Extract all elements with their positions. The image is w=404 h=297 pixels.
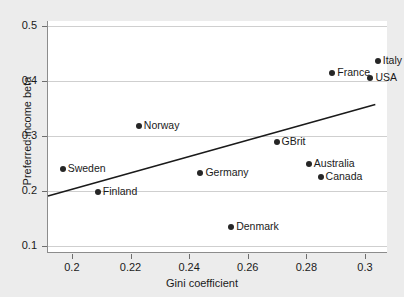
x-tick-mark-0 [72,254,73,259]
x-axis-label: Gini coefficient [0,277,404,289]
x-tick-label: 0.26 [228,262,268,273]
point-marker [274,139,280,145]
x-tick-label: 0.2 [52,262,92,273]
x-tick-mark-1 [131,254,132,259]
point-label: Denmark [236,221,279,232]
y-tick-mark-3 [42,81,47,82]
x-tick-mark-2 [189,254,190,259]
point-marker [306,161,312,167]
y-tick-label: 0.5 [3,20,37,31]
y-tick-mark-2 [42,136,47,137]
point-label: Australia [314,158,355,169]
point-marker [318,174,324,180]
y-axis-label: Preferred income beta [21,46,33,216]
point-label: Canada [326,171,363,182]
plot-area: SwedenFinlandNorwayGermanyDenmarkGBritAu… [47,21,387,253]
point-marker [228,224,234,230]
point-label: France [337,67,370,78]
x-tick-label: 0.3 [345,262,385,273]
point-marker [329,70,335,76]
point-marker [60,166,66,172]
x-tick-label: 0.28 [286,262,326,273]
y-tick-mark-1 [42,191,47,192]
point-label: Norway [144,120,180,131]
x-tick-mark-5 [365,254,366,259]
scatter-plot-figure: SwedenFinlandNorwayGermanyDenmarkGBritAu… [0,0,404,297]
point-label: Germany [205,167,248,178]
point-label: GBrit [282,136,306,147]
point-label: Finland [103,186,137,197]
y-tick-mark-4 [42,26,47,27]
y-tick-label: 0.1 [3,240,37,251]
data-points: SwedenFinlandNorwayGermanyDenmarkGBritAu… [48,21,387,252]
point-marker [136,123,142,129]
point-label: Italy [383,55,402,66]
point-marker [367,75,373,81]
y-tick-mark-0 [42,246,47,247]
point-marker [197,170,203,176]
point-marker [95,189,101,195]
x-tick-label: 0.24 [169,262,209,273]
point-marker [375,58,381,64]
point-label: Sweden [68,163,106,174]
x-tick-mark-3 [248,254,249,259]
point-label: USA [375,72,397,83]
x-tick-mark-4 [306,254,307,259]
x-tick-label: 0.22 [111,262,151,273]
